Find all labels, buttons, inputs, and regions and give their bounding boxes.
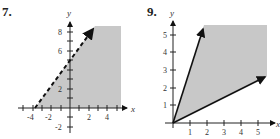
x-tick-label: 3 bbox=[222, 128, 226, 137]
x-tick-label: 4 bbox=[239, 128, 243, 137]
y-tick-label: 2 bbox=[163, 84, 167, 93]
shaded-region bbox=[173, 25, 267, 123]
graph-9: y x 1 2 3 4 5 5 4 3 2 1 bbox=[0, 0, 280, 139]
x-tick-label: 1 bbox=[188, 128, 192, 137]
y-tick-label: 5 bbox=[163, 31, 167, 40]
x-axis-label: x bbox=[275, 119, 280, 129]
y-tick-label: 4 bbox=[163, 48, 167, 57]
y-tick-label: 3 bbox=[163, 66, 167, 75]
x-tick-label: 2 bbox=[205, 128, 209, 137]
x-tick-label: 5 bbox=[256, 128, 260, 137]
y-axis-label: y bbox=[169, 8, 174, 18]
y-tick-label: 1 bbox=[163, 101, 167, 110]
